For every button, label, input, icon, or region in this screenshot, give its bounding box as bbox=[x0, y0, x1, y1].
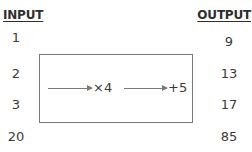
arrow-1 bbox=[48, 88, 92, 89]
arrow-2 bbox=[124, 88, 167, 89]
output-value-3: 17 bbox=[214, 97, 244, 112]
input-value-2: 2 bbox=[1, 66, 31, 81]
output-value-4: 85 bbox=[214, 129, 244, 144]
input-value-3: 3 bbox=[1, 97, 31, 112]
input-value-4: 20 bbox=[1, 129, 31, 144]
input-header: INPUT bbox=[3, 8, 43, 22]
output-value-2: 13 bbox=[214, 66, 244, 81]
operation-add: +5 bbox=[168, 80, 187, 95]
operation-multiply: ×4 bbox=[93, 80, 112, 95]
output-header: OUTPUT bbox=[197, 8, 251, 22]
input-value-1: 1 bbox=[1, 30, 31, 45]
output-value-1: 9 bbox=[214, 34, 244, 49]
